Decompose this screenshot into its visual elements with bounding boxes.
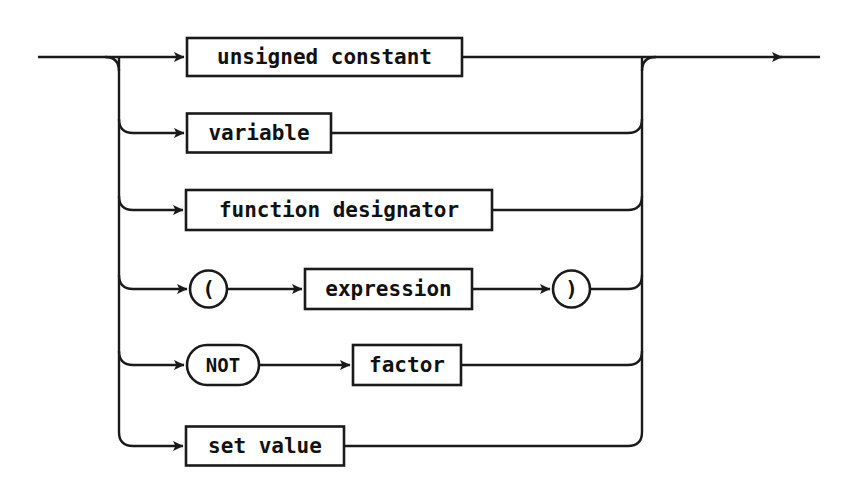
alternative-set-value: set value (186, 427, 344, 466)
rail-lines (38, 57, 820, 446)
left-rail-top-corner (105, 57, 119, 71)
branch-left-set-value (119, 432, 183, 446)
node-label-parenthesized-expression-node-0: ( (202, 277, 215, 301)
node-label-function-designator-node-0: function designator (219, 198, 459, 222)
alternative-variable: variable (187, 114, 331, 153)
node-shapes: unsigned constantvariablefunction design… (186, 38, 590, 466)
branch-right-not-factor (461, 351, 642, 365)
branch-right-set-value (344, 432, 642, 446)
branch-right-variable (331, 119, 642, 133)
alternative-unsigned-constant: unsigned constant (187, 38, 462, 76)
alternative-function-designator: function designator (186, 190, 492, 230)
branch-right-function-designator (492, 196, 642, 210)
syntax-diagram-canvas: unsigned constantvariablefunction design… (0, 0, 858, 497)
branch-left-variable (119, 119, 184, 133)
branch-left-function-designator (119, 196, 183, 210)
node-label-not-factor-node-1: factor (369, 353, 445, 377)
node-label-set-value-node-0: set value (208, 434, 322, 458)
railroad-diagram: unsigned constantvariablefunction design… (0, 0, 858, 497)
branch-left-parenthesized-expression (119, 275, 187, 289)
right-rail-top-corner (642, 57, 656, 71)
node-label-variable-node-0: variable (208, 121, 309, 145)
node-label-not-factor-node-0: NOT (206, 354, 240, 376)
branch-left-not-factor (119, 351, 184, 365)
node-label-parenthesized-expression-node-1: expression (325, 277, 451, 301)
branch-right-parenthesized-expression (590, 275, 642, 289)
node-label-parenthesized-expression-node-2: ) (565, 277, 578, 301)
node-label-unsigned-constant-node-0: unsigned constant (217, 45, 432, 69)
